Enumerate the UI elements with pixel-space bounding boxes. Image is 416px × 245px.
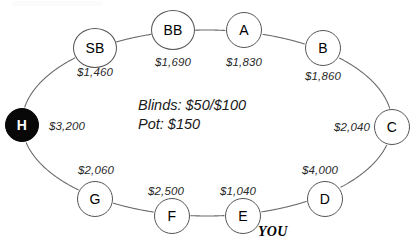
seat-stack-h: $3,200 — [49, 120, 85, 132]
edge-sb-bb — [116, 34, 151, 42]
seat-stack-a: $1,830 — [226, 56, 262, 68]
seat-stack-c: $2,040 — [334, 121, 370, 133]
hero-you-label: YOU — [258, 224, 288, 240]
seat-stack-g: $2,060 — [78, 164, 114, 176]
poker-table-diagram: SB$1,460BB$1,690A$1,830B$1,860C$2,040D$4… — [0, 0, 416, 245]
seat-node-bb[interactable]: BB — [151, 10, 195, 50]
seat-stack-sb: $1,460 — [77, 66, 113, 78]
seat-node-b[interactable]: B — [305, 30, 341, 66]
seat-stack-bb: $1,690 — [155, 56, 191, 68]
seat-node-sb[interactable]: SB — [73, 28, 117, 68]
blinds-text: Blinds: $50/$100 — [138, 96, 246, 115]
edge-g-h — [26, 143, 79, 190]
edge-d-e — [261, 201, 306, 212]
seat-node-d[interactable]: D — [307, 181, 343, 217]
edge-b-c — [339, 58, 390, 109]
edge-a-b — [263, 34, 305, 44]
seat-stack-b: $1,860 — [305, 70, 341, 82]
pot-text: Pot: $150 — [138, 115, 246, 134]
seat-stack-d: $4,000 — [302, 164, 338, 176]
seat-node-h[interactable]: H — [5, 108, 39, 142]
edge-c-d — [341, 145, 387, 187]
seat-node-f[interactable]: F — [154, 198, 190, 234]
center-info: Blinds: $50/$100 Pot: $150 — [138, 96, 246, 134]
seat-stack-e: $1,040 — [220, 185, 256, 197]
edge-h-sb — [25, 58, 75, 108]
seat-node-a[interactable]: A — [226, 12, 262, 48]
seat-node-c[interactable]: C — [374, 109, 410, 145]
edge-f-g — [113, 203, 154, 212]
seat-node-e[interactable]: E — [225, 198, 261, 234]
seat-stack-f: $2,500 — [148, 185, 184, 197]
seat-node-g[interactable]: G — [77, 181, 113, 217]
